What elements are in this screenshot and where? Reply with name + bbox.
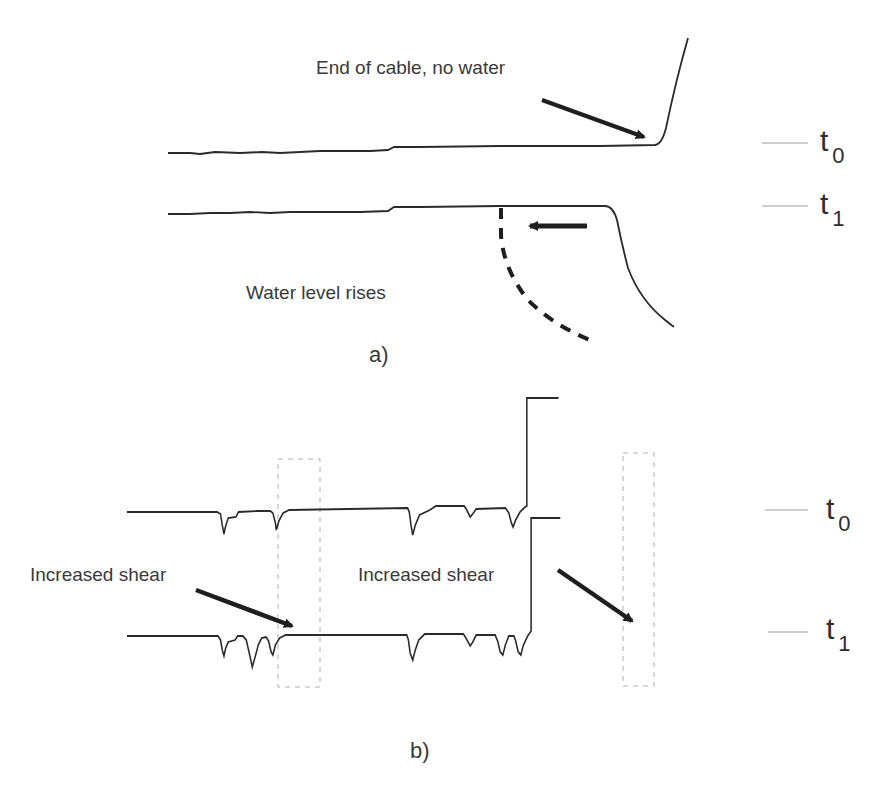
panel-b-t1-sub: 1 <box>838 631 850 656</box>
panel-b-caption: b) <box>410 738 430 764</box>
panel-b-t1-base: t <box>826 612 834 645</box>
panel-b-highlight-box-right <box>623 453 654 686</box>
panel-a-trace-t0 <box>168 38 688 154</box>
panel-a-t1-base: t <box>820 187 828 220</box>
panel-a-trace-t1 <box>168 206 674 327</box>
panel-a-t1-label: t1 <box>820 187 845 232</box>
panel-b-trace-t0 <box>127 398 559 535</box>
panel-a-water-level-label: Water level rises <box>246 282 386 304</box>
diagram-canvas <box>0 0 890 787</box>
panel-b-t0-sub: 0 <box>838 511 850 536</box>
panel-b-increased-shear-label-right: Increased shear <box>358 564 494 586</box>
panel-a-t1-sub: 1 <box>832 206 844 231</box>
panel-a-end-of-cable-label: End of cable, no water <box>316 57 505 79</box>
panel-b-highlight-box-left <box>278 459 320 687</box>
panel-b-t0-label: t0 <box>826 492 851 537</box>
panel-b-increased-shear-label-left: Increased shear <box>30 564 166 586</box>
panel-b-t0-base: t <box>826 492 834 525</box>
panel-a-caption: a) <box>369 342 389 368</box>
panel-a-t0-base: t <box>820 124 828 157</box>
panel-b-t1-label: t1 <box>826 612 851 657</box>
panel-a-t0-label: t0 <box>820 124 845 169</box>
panel-a-end-of-cable-arrow <box>542 100 644 137</box>
panel-b <box>127 398 808 687</box>
panel-b-increased-shear-arrow-right <box>558 570 632 621</box>
panel-b-trace-t1 <box>127 518 560 667</box>
panel-a-t0-sub: 0 <box>832 143 844 168</box>
